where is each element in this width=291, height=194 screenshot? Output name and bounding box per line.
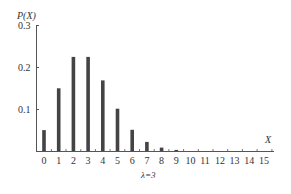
bar-7 xyxy=(145,142,149,151)
lambda-annotation: λ=3 xyxy=(141,170,155,180)
x-tick-label: 8 xyxy=(159,156,164,166)
x-tick-label: 14 xyxy=(244,156,254,166)
x-axis-label: X xyxy=(265,135,271,145)
x-tick-label: 12 xyxy=(215,156,225,166)
bar-6 xyxy=(130,130,134,151)
x-tick-label: 6 xyxy=(130,156,135,166)
x-tick-label: 10 xyxy=(186,156,196,166)
bar-3 xyxy=(86,57,90,151)
bar-2 xyxy=(72,57,76,151)
x-tick-label: 2 xyxy=(71,156,76,166)
ytick-label-03: 0.3 xyxy=(18,21,31,31)
x-tick-label: 0 xyxy=(42,156,47,166)
x-tick-label: 13 xyxy=(230,156,240,166)
bar-1 xyxy=(57,88,61,151)
x-tick-label: 11 xyxy=(200,156,210,166)
ytick-label-01: 0.1 xyxy=(18,105,31,115)
bar-0 xyxy=(42,130,46,151)
bars xyxy=(42,57,178,151)
x-tick-label: 9 xyxy=(174,156,179,166)
x-tick-label: 15 xyxy=(259,156,269,166)
bar-9 xyxy=(175,150,179,151)
x-tick-label: 3 xyxy=(86,156,91,166)
bar-5 xyxy=(116,109,120,151)
ytick-label-02: 0.2 xyxy=(18,63,31,73)
x-tick-label: 4 xyxy=(100,156,105,166)
bar-8 xyxy=(160,148,164,151)
x-tick-label: 1 xyxy=(56,156,61,166)
x-tick-label: 7 xyxy=(144,156,149,166)
x-tick-label: 5 xyxy=(115,156,120,166)
bar-4 xyxy=(101,80,105,151)
